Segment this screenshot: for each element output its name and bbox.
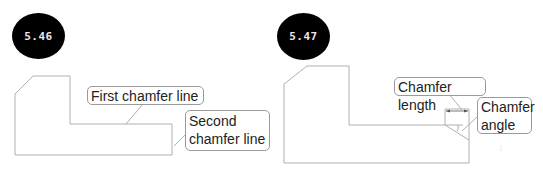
callout-line-2: chamfer line — [189, 130, 266, 148]
leader-chamfer-length — [449, 94, 462, 110]
callout-first-chamfer-line: First chamfer line — [87, 86, 204, 105]
callout-line-1: Second — [189, 112, 266, 130]
callout-chamfer-angle: Chamfer angle — [477, 97, 532, 134]
dimension-arrow-left — [446, 110, 450, 113]
figure-number-badge: 5.47 — [277, 13, 330, 60]
callout-line-1: Chamfer — [481, 98, 528, 116]
dimension-arrow-right — [464, 110, 468, 113]
callout-line-2: angle — [481, 116, 528, 134]
leader-second-chamfer — [174, 135, 185, 146]
faint-mark: .|. — [498, 144, 504, 152]
angle-arc — [457, 125, 458, 131]
figure-number-badge: 5.46 — [12, 13, 65, 59]
callout-second-chamfer-line: Second chamfer line — [185, 110, 270, 151]
callout-chamfer-length: Chamfer length — [394, 77, 486, 96]
leader-first-chamfer — [126, 104, 143, 124]
